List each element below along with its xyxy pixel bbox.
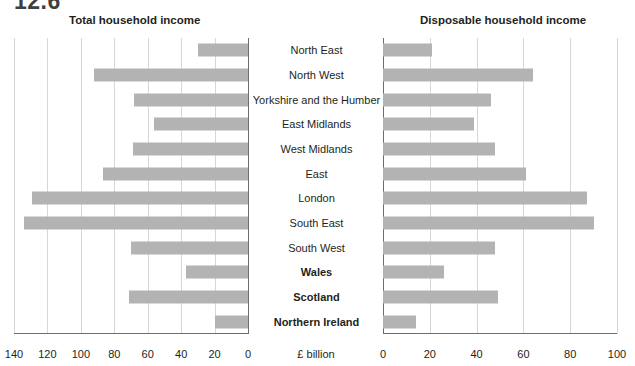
bar-east	[103, 167, 248, 180]
x-axis-ticks-right: 020406080100	[383, 348, 617, 362]
axis-baseline-right	[383, 333, 617, 334]
bar-wales	[383, 266, 444, 279]
bar-north-east	[383, 44, 432, 57]
bar-row	[14, 137, 248, 162]
axis-tick-label: 40	[175, 348, 187, 360]
bar-east-midlands	[154, 118, 248, 131]
bar-row	[383, 38, 617, 63]
category-label: Northern Ireland	[250, 309, 383, 334]
bar-wales	[186, 266, 248, 279]
axis-tick-label: 120	[38, 348, 56, 360]
bar-west-midlands	[383, 143, 495, 156]
category-label: North West	[250, 63, 383, 88]
axis-tick-label: 20	[424, 348, 436, 360]
axis-tick-label: 80	[564, 348, 576, 360]
bar-row	[14, 235, 248, 260]
bar-east-midlands	[383, 118, 474, 131]
bar-south-west	[383, 241, 495, 254]
category-labels: North EastNorth WestYorkshire and the Hu…	[250, 38, 383, 343]
bar-row	[14, 285, 248, 310]
bar-row	[383, 211, 617, 236]
axis-tick-label: 0	[245, 348, 251, 360]
chart-panel-disposable-household-income	[383, 38, 617, 343]
bar-row	[383, 87, 617, 112]
gridline	[617, 38, 618, 334]
bar-rows-left	[14, 38, 248, 334]
bar-row	[14, 38, 248, 63]
bar-south-east	[383, 217, 594, 230]
bar-row	[14, 87, 248, 112]
bar-row	[14, 186, 248, 211]
axis-tick-label: 40	[470, 348, 482, 360]
category-label: East Midlands	[250, 112, 383, 137]
axis-tick-label: 0	[380, 348, 386, 360]
category-label: Yorkshire and the Humber	[250, 87, 383, 112]
bar-scotland	[129, 291, 248, 304]
bar-yorkshire-and-the-humber	[134, 93, 248, 106]
axis-tick-label: 80	[108, 348, 120, 360]
category-label: London	[250, 186, 383, 211]
bar-london	[383, 192, 587, 205]
bar-row	[383, 235, 617, 260]
bar-row	[14, 309, 248, 334]
axis-tick-label: 20	[208, 348, 220, 360]
clipped-section-heading: 12.6	[14, 0, 61, 15]
category-label-rows: North EastNorth WestYorkshire and the Hu…	[250, 38, 383, 334]
chart-panel-total-household-income	[14, 38, 248, 343]
bar-row	[383, 63, 617, 88]
axis-tick-label: 100	[608, 348, 626, 360]
bar-scotland	[383, 291, 498, 304]
bar-row	[14, 260, 248, 285]
bar-north-west	[94, 69, 248, 82]
bar-rows-right	[383, 38, 617, 334]
category-label: North East	[250, 38, 383, 63]
bar-row	[383, 260, 617, 285]
bar-row	[383, 161, 617, 186]
axis-tick-label: 140	[5, 348, 23, 360]
bar-south-east	[24, 217, 248, 230]
bar-london	[32, 192, 248, 205]
category-label: East	[250, 161, 383, 186]
bar-row	[14, 211, 248, 236]
chart-title-right: Disposable household income	[420, 14, 586, 26]
bar-yorkshire-and-the-humber	[383, 93, 491, 106]
category-label: Wales	[250, 260, 383, 285]
bar-row	[383, 112, 617, 137]
bar-northern-ireland	[383, 315, 416, 328]
bar-row	[14, 63, 248, 88]
bar-east	[383, 167, 526, 180]
axis-tick-label: 60	[142, 348, 154, 360]
axis-unit-label: £ billion	[297, 348, 334, 360]
category-label: West Midlands	[250, 137, 383, 162]
value-axis-line	[248, 38, 249, 334]
axis-tick-label: 100	[72, 348, 90, 360]
category-label: South West	[250, 235, 383, 260]
bar-row	[383, 137, 617, 162]
bar-south-west	[131, 241, 248, 254]
bar-northern-ireland	[215, 315, 248, 328]
chart-titles: Total household income Disposable househ…	[0, 14, 635, 30]
bar-row	[383, 285, 617, 310]
chart-title-left: Total household income	[69, 14, 200, 26]
category-label: South East	[250, 211, 383, 236]
bar-row	[14, 161, 248, 186]
bar-north-east	[198, 44, 248, 57]
bar-row	[14, 112, 248, 137]
bar-row	[383, 309, 617, 334]
bar-west-midlands	[133, 143, 248, 156]
bar-row	[383, 186, 617, 211]
bar-north-west	[383, 69, 533, 82]
x-axis-ticks-left: 140120100806040200	[14, 348, 248, 362]
axis-tick-label: 60	[517, 348, 529, 360]
axis-baseline-left	[14, 333, 248, 334]
category-label: Scotland	[250, 285, 383, 310]
